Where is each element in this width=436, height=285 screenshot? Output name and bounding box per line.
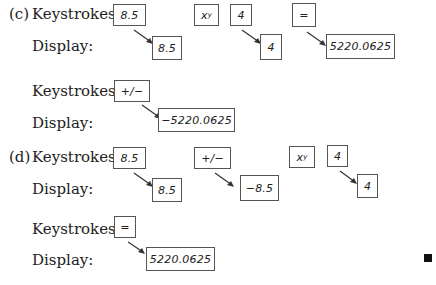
key-8-5: 8.5: [113, 4, 146, 26]
display-label: Display:: [32, 251, 93, 269]
key-4: 4: [327, 145, 348, 167]
display-8-5: 8.5: [152, 178, 182, 202]
keystrokes-label: Keystrokes:: [32, 220, 121, 238]
keystrokes-label: Keystrokes:: [32, 5, 121, 23]
display-8-5: 8.5: [152, 36, 182, 60]
keystrokes-label: Keystrokes:: [32, 82, 121, 100]
key-change-sign: +/−: [194, 147, 231, 169]
key-change-sign: +/−: [114, 80, 150, 102]
key-4: 4: [230, 4, 252, 26]
display-label: Display:: [32, 114, 93, 132]
key-x-power-y: xy: [289, 146, 315, 168]
display-4: 4: [357, 174, 378, 198]
key-x-power-y: xy: [194, 4, 219, 26]
display-result: 5220.0625: [146, 247, 215, 271]
part-c-label: (c): [9, 5, 29, 23]
display-negative-8-5: −8.5: [240, 175, 279, 201]
keystrokes-label: Keystrokes:: [32, 148, 121, 166]
part-d-label: (d): [9, 148, 30, 166]
display-4: 4: [260, 34, 282, 60]
display-label: Display:: [32, 180, 93, 198]
key-equals: =: [114, 216, 136, 238]
arrow-icon: [213, 171, 237, 189]
display-negative-result: −5220.0625: [158, 108, 235, 132]
end-of-proof-square-icon: [424, 254, 432, 262]
key-8-5: 8.5: [113, 147, 146, 169]
display-result: 5220.0625: [326, 34, 395, 59]
arrow-icon: [126, 240, 148, 256]
key-equals: =: [292, 3, 316, 27]
display-label: Display:: [32, 37, 93, 55]
